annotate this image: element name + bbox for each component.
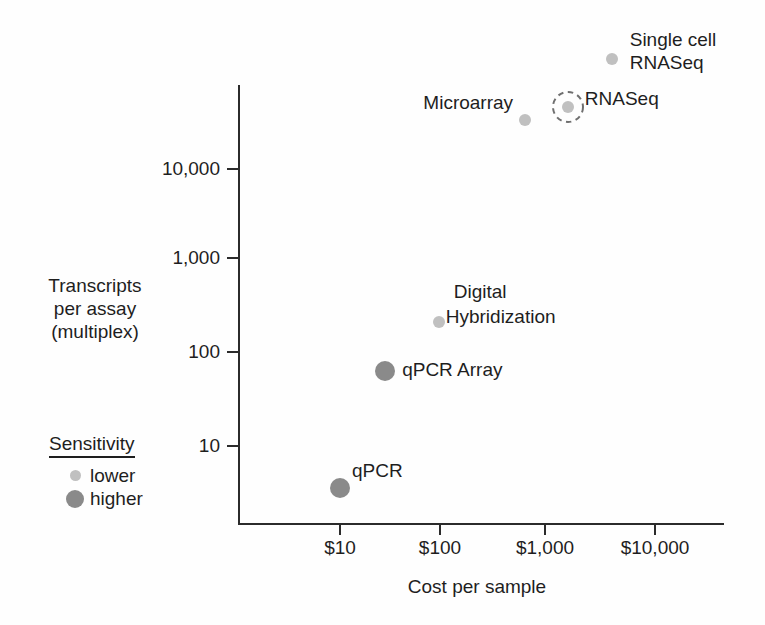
y-tick-mark: [227, 351, 239, 353]
y-tick-label: 10: [138, 434, 220, 458]
y-tick-mark: [227, 257, 239, 259]
point-label-line: RNASeq: [585, 88, 659, 110]
point-single-cell-rnaseq-dot: [606, 53, 618, 65]
point-label-line: Hybridization: [446, 304, 556, 329]
x-tick-label: $1,000: [485, 536, 605, 560]
legend-higher-dot-icon: [66, 490, 84, 508]
x-tick-mark: [544, 525, 546, 535]
point-microarray-dot: [519, 114, 531, 126]
y-tick-mark: [227, 168, 239, 170]
point-label-line: qPCR Array: [402, 359, 502, 381]
y-axis-title-line: (multiplex): [15, 320, 175, 343]
point-qpcr-dot: [330, 478, 350, 498]
point-label-line: Digital: [454, 279, 556, 304]
y-tick-mark: [227, 445, 239, 447]
point-label-line: qPCR: [352, 460, 403, 482]
x-axis-title: Cost per sample: [377, 576, 577, 598]
legend-higher-label: higher: [90, 488, 143, 510]
point-digital-hybridization-dot: [433, 316, 445, 328]
x-tick-mark: [339, 525, 341, 535]
y-axis-title-line: per assay: [15, 297, 175, 320]
legend-lower-dot-icon: [70, 470, 81, 481]
point-microarray-label: Microarray: [423, 92, 513, 114]
point-rnaseq-label: RNASeq: [585, 88, 659, 110]
point-label-line: RNASeq: [630, 51, 717, 74]
x-tick-mark: [439, 525, 441, 535]
x-axis-line: [238, 523, 724, 525]
y-axis-line: [238, 85, 240, 525]
point-qpcr-array-dot: [375, 361, 395, 381]
point-digital-hybridization-label: DigitalHybridization: [446, 279, 556, 329]
point-label-line: Single cell: [630, 28, 717, 51]
point-label-line: Microarray: [423, 92, 513, 114]
y-tick-label: 100: [138, 340, 220, 364]
legend-title: Sensitivity: [49, 433, 135, 458]
point-single-cell-rnaseq-label: Single cellRNASeq: [630, 28, 717, 74]
y-tick-label: 10,000: [138, 157, 220, 181]
x-tick-label: $10,000: [595, 536, 715, 560]
point-qpcr-array-label: qPCR Array: [402, 359, 502, 381]
point-qpcr-label: qPCR: [352, 460, 403, 482]
x-tick-mark: [654, 525, 656, 535]
legend-lower-label: lower: [90, 465, 135, 487]
scatter-chart-figure: 10 100 1,000 10,000 $10 $100 $1,000 $10,…: [0, 0, 765, 625]
x-tick-label: $100: [380, 536, 500, 560]
y-axis-title-line: Transcripts: [15, 274, 175, 297]
y-axis-title: Transcripts per assay (multiplex): [15, 274, 175, 343]
y-tick-label: 1,000: [138, 246, 220, 270]
